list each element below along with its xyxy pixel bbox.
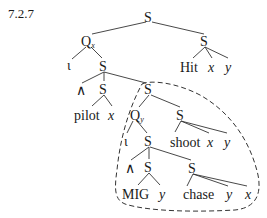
example-number: 7.2.7 — [8, 6, 35, 21]
hit-arg-y: y — [223, 60, 232, 75]
pilot-predicate: pilot — [74, 108, 100, 123]
shoot-s: S — [176, 108, 184, 123]
logical-form-tree: 7.2.7 S Qx S Hit x y ι S ∧ S S pilot x Q… — [0, 0, 267, 218]
chase-arg-y: y — [224, 187, 233, 202]
mig-s: S — [144, 160, 152, 175]
scope-s: S — [144, 82, 152, 97]
quantifier-y: Qy — [130, 108, 144, 124]
pilot-s: S — [99, 82, 107, 97]
chase-predicate: chase — [183, 187, 214, 202]
root-s: S — [144, 10, 152, 25]
mig-arg-y: y — [157, 187, 166, 202]
restrictor-s: S — [99, 59, 107, 74]
iota-y: ι — [124, 134, 128, 149]
hit-predicate: Hit — [180, 60, 198, 75]
mig-predicate: MIG — [122, 187, 149, 202]
chase-s: S — [188, 161, 196, 176]
restrictor-s-2: S — [144, 134, 152, 149]
conjunction-1: ∧ — [76, 83, 86, 98]
hit-s: S — [200, 34, 208, 49]
conjunction-2: ∧ — [125, 161, 135, 176]
hit-arg-x: x — [207, 60, 215, 75]
shoot-arg-y: y — [222, 135, 231, 150]
quantifier-x: Qx — [81, 34, 95, 50]
shoot-predicate: shoot — [170, 135, 200, 150]
pilot-arg-x: x — [107, 108, 115, 123]
shoot-arg-x: x — [206, 135, 214, 150]
iota-x: ι — [67, 58, 71, 73]
chase-arg-x: x — [244, 187, 252, 202]
tree-edges — [72, 22, 247, 186]
